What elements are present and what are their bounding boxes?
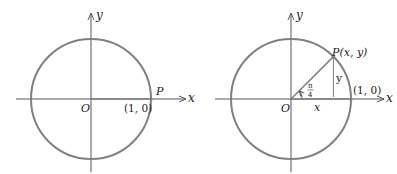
point-coord-label: (1, 0) xyxy=(124,102,152,114)
origin-label: O xyxy=(281,102,290,115)
point-p-label: P(x, y) xyxy=(331,46,367,59)
angle-denominator: 4 xyxy=(308,91,313,99)
vertical-leg-label: y xyxy=(335,72,343,85)
unit-point-label: (1, 0) xyxy=(353,84,381,96)
right-diagram: y x O P(x, y) (1, 0) x y π 4 xyxy=(215,8,393,172)
y-axis-label: y xyxy=(295,8,303,22)
left-diagram: y x O P (1, 0) xyxy=(16,8,195,172)
y-axis-label: y xyxy=(95,8,103,22)
angle-arc-icon xyxy=(300,91,303,98)
x-axis-label: x xyxy=(386,91,393,105)
unit-circle-figures: y x O P (1, 0) y x O P(x, y) (1, 0) x y … xyxy=(0,0,397,174)
point-p xyxy=(149,97,152,100)
unit-point xyxy=(349,97,352,100)
x-axis-label: x xyxy=(188,91,195,105)
point-label: P xyxy=(155,85,164,98)
angle-numerator: π xyxy=(308,82,313,90)
horizontal-leg-label: x xyxy=(314,101,321,114)
origin-label: O xyxy=(81,102,90,115)
